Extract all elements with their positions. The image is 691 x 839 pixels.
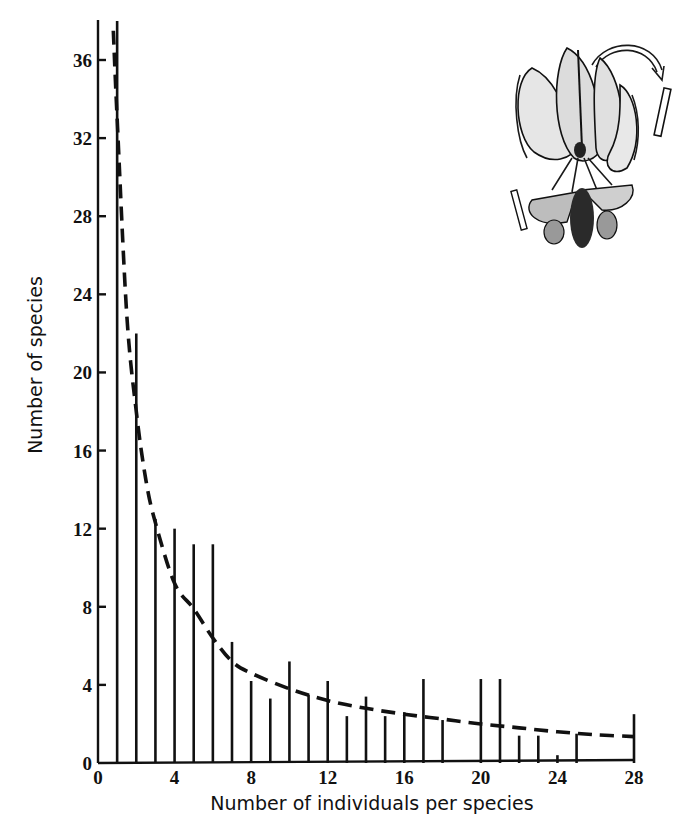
y-tick-label: 8	[83, 597, 93, 618]
x-tick-label: 20	[471, 767, 490, 788]
y-tick-label: 4	[83, 675, 93, 696]
x-tick-label: 8	[246, 767, 256, 788]
x-tick-label: 0	[93, 767, 103, 788]
y-tick-label: 12	[73, 519, 92, 540]
y-tick-label: 24	[73, 284, 93, 305]
y-tick-label: 28	[73, 206, 92, 227]
x-tick-label: 4	[170, 767, 180, 788]
x-tick-label: 28	[625, 767, 644, 788]
x-tick-label: 12	[318, 767, 337, 788]
x-tick-label: 24	[548, 767, 568, 788]
y-axis-title: Number of species	[24, 276, 46, 454]
x-tick-label: 16	[395, 767, 414, 788]
y-tick-label: 36	[73, 50, 92, 71]
y-tick-label: 20	[73, 362, 92, 383]
y-axis: 04812162024283236	[73, 20, 106, 774]
y-tick-label: 32	[73, 128, 92, 149]
species-abundance-chart: 04812162024283236 0481216202428 Number o…	[0, 0, 691, 839]
lily-moth-illustration-icon	[511, 45, 671, 248]
x-axis: 0481216202428	[93, 760, 643, 788]
y-tick-label: 16	[73, 441, 92, 462]
x-axis-title: Number of individuals per species	[210, 792, 533, 814]
y-tick-label: 0	[83, 753, 93, 774]
